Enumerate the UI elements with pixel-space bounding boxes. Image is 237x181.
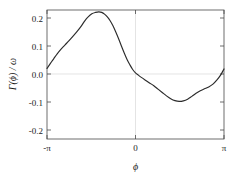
y-tick-label-2: 0.0 xyxy=(32,70,44,80)
chart-figure: 0.2 0.1 0.0 -0.1 -0.2 -π 0 π ϕ Γ(ϕ) / ω xyxy=(0,0,237,181)
y-tick-label-3: -0.1 xyxy=(29,98,43,108)
y-tick-label-0: 0.2 xyxy=(32,14,43,24)
plot-canvas: 0.2 0.1 0.0 -0.1 -0.2 -π 0 π ϕ Γ(ϕ) / ω xyxy=(0,0,237,181)
x-tick-label-1: 0 xyxy=(133,143,138,153)
y-tick-label-1: 0.1 xyxy=(32,42,43,52)
x-axis-title: ϕ xyxy=(133,161,138,172)
y-tick-labels: 0.2 0.1 0.0 -0.1 -0.2 xyxy=(29,14,44,136)
x-tick-label-2: π xyxy=(222,143,227,153)
x-tick-label-0: -π xyxy=(43,143,51,153)
y-axis-title: Γ(ϕ) / ω xyxy=(7,58,19,91)
y-tick-label-4: -0.2 xyxy=(29,126,43,136)
x-tick-labels: -π 0 π xyxy=(43,143,227,153)
gridlines xyxy=(47,10,224,139)
